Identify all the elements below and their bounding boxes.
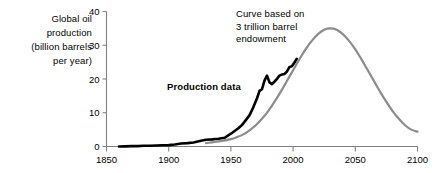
x-tick-label-2050: 2050 bbox=[345, 154, 366, 165]
endowment-annotation-line-1: Curve based on bbox=[236, 8, 304, 21]
y-tick-group: 010203040 bbox=[89, 6, 107, 152]
y-tick-label-40: 40 bbox=[89, 6, 100, 17]
x-tick-label-2000: 2000 bbox=[283, 154, 304, 165]
y-tick-label-20: 20 bbox=[89, 74, 100, 85]
series-group bbox=[119, 28, 418, 146]
x-tick-label-2100: 2100 bbox=[407, 154, 428, 165]
endowment-annotation-line-3: endowment bbox=[236, 33, 304, 46]
x-tick-label-1950: 1950 bbox=[220, 154, 241, 165]
endowment-annotation: Curve based on 3 trillion barrel endowme… bbox=[236, 8, 304, 46]
y-tick-label-10: 10 bbox=[89, 107, 100, 118]
series-production-data bbox=[119, 59, 297, 147]
chart-figure: Global oil production (billion barrels p… bbox=[0, 0, 438, 173]
x-tick-label-1900: 1900 bbox=[158, 154, 179, 165]
x-tick-group: 185019001950200020502100 bbox=[96, 147, 428, 166]
x-tick-label-1850: 1850 bbox=[96, 154, 117, 165]
production-data-annotation: Production data bbox=[167, 81, 241, 94]
endowment-annotation-line-2: 3 trillion barrel bbox=[236, 21, 304, 34]
y-tick-label-30: 30 bbox=[89, 40, 100, 51]
y-tick-label-0: 0 bbox=[94, 141, 99, 152]
